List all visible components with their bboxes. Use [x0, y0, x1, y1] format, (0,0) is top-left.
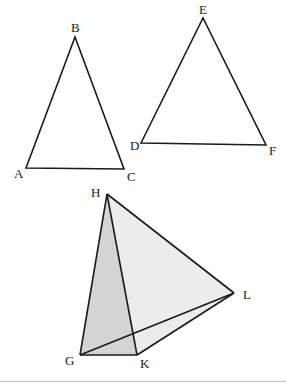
vertex-label-d: D [130, 138, 139, 153]
vertex-label-g: G [65, 353, 74, 368]
tetrahedron-ghkl: H G K L [65, 185, 251, 371]
geometry-diagram: A B C D E F H G K L [0, 0, 286, 384]
vertex-label-a: A [14, 166, 24, 181]
triangle-def: D E F [130, 2, 276, 158]
vertex-label-f: F [269, 143, 276, 158]
vertex-label-l: L [243, 287, 251, 302]
triangle-def-outline [141, 18, 266, 145]
vertex-label-e: E [199, 2, 207, 17]
vertex-label-c: C [127, 169, 136, 184]
vertex-label-h: H [91, 185, 100, 200]
vertex-label-b: B [71, 20, 80, 35]
vertex-label-k: K [140, 356, 150, 371]
triangle-abc: A B C [14, 20, 136, 184]
triangle-abc-outline [26, 37, 124, 169]
